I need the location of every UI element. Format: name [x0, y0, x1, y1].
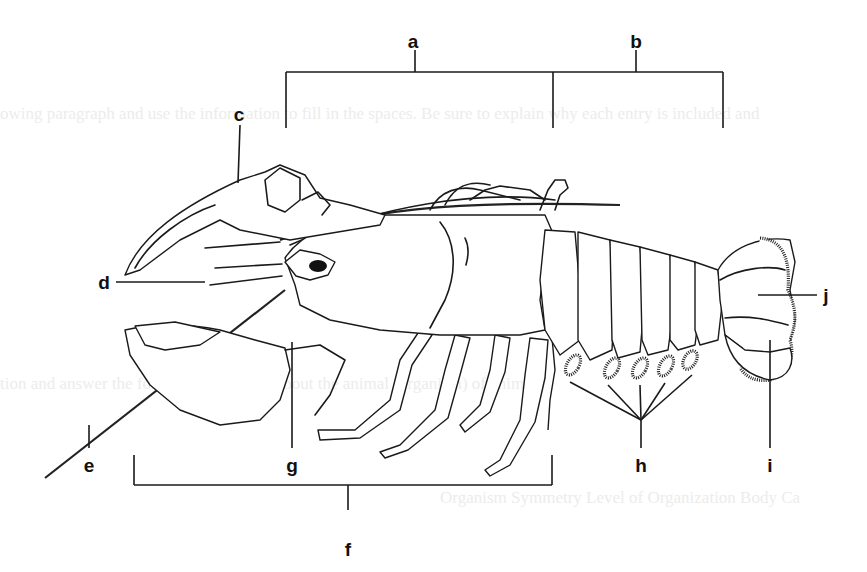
abdomen	[540, 230, 722, 360]
label-a: a	[408, 32, 419, 51]
tail-fan	[718, 238, 795, 380]
crayfish-drawing	[0, 0, 867, 572]
eye	[309, 260, 327, 272]
label-c: c	[234, 105, 245, 124]
label-g: g	[286, 456, 298, 475]
label-f: f	[345, 540, 351, 559]
label-d: d	[98, 273, 110, 292]
cheliped-lower	[125, 322, 345, 425]
bracket-a-b	[286, 50, 723, 128]
label-j: j	[823, 286, 828, 305]
label-e: e	[84, 456, 95, 475]
label-b: b	[630, 32, 642, 51]
label-i: i	[767, 456, 772, 475]
walking-legs	[318, 330, 555, 476]
crayfish-diagram: owing paragraph and use the information …	[0, 0, 867, 572]
label-h: h	[635, 456, 647, 475]
